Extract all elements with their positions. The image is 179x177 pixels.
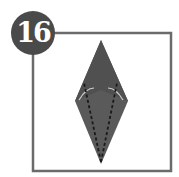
step-number: 16 <box>11 16 55 50</box>
